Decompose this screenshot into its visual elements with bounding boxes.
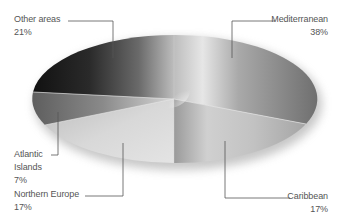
label-other-areas-name: Other areas	[14, 13, 60, 26]
label-atlantic-islands-name-1: Atlantic	[14, 148, 43, 161]
label-other-areas: Other areas 21%	[14, 13, 60, 39]
label-mediterranean-name: Mediterranean	[271, 13, 328, 26]
pie-highlight	[146, 72, 190, 108]
label-northern-europe: Northern Europe 17%	[14, 188, 79, 214]
label-mediterranean: Mediterranean 38%	[271, 13, 328, 39]
label-caribbean-name: Caribbean	[287, 190, 328, 203]
label-northern-europe-name: Northern Europe	[14, 188, 79, 201]
label-caribbean-pct: 17%	[287, 203, 328, 216]
label-caribbean: Caribbean 17%	[287, 190, 328, 216]
label-northern-europe-pct: 17%	[14, 201, 79, 214]
label-atlantic-islands-name-2: Islands	[14, 161, 43, 174]
label-atlantic-islands: Atlantic Islands 7%	[14, 148, 43, 187]
label-mediterranean-pct: 38%	[271, 26, 328, 39]
label-atlantic-islands-pct: 7%	[14, 174, 43, 187]
label-other-areas-pct: 21%	[14, 26, 60, 39]
